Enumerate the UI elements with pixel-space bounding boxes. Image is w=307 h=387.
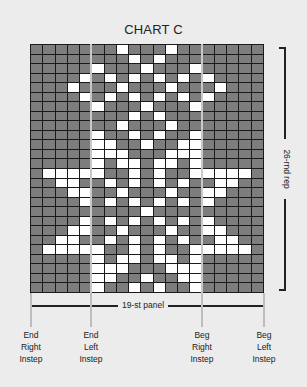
chart-cell-light: [178, 93, 189, 102]
chart-cell-dark: [68, 93, 79, 102]
chart-cell-light: [154, 179, 165, 188]
chart-cell-dark: [105, 131, 116, 140]
chart-cell-dark: [68, 121, 79, 130]
chart-cell-light: [239, 169, 250, 178]
chart-cell-dark: [56, 198, 67, 207]
chart-cell-dark: [31, 188, 42, 197]
chart-cell-light: [178, 198, 189, 207]
chart-cell-light: [92, 283, 103, 292]
chart-cell-dark: [92, 198, 103, 207]
chart-cell-light: [203, 93, 214, 102]
chart-cell-dark: [239, 55, 250, 64]
chart-cell-dark: [105, 102, 116, 111]
chart-cell-dark: [252, 188, 263, 197]
label-line: Instep: [66, 353, 116, 365]
chart-cell-dark: [203, 255, 214, 264]
chart-cell-dark: [178, 283, 189, 292]
chart-cell-dark: [190, 217, 201, 226]
chart-cell-light: [166, 255, 177, 264]
chart-cell-dark: [239, 74, 250, 83]
chart-cell-light: [129, 169, 140, 178]
chart-cell-dark: [215, 140, 226, 149]
chart-cell-dark: [43, 150, 54, 159]
chart-cell-dark: [68, 217, 79, 226]
chart-cell-light: [154, 198, 165, 207]
chart-cell-light: [215, 179, 226, 188]
chart-cell-dark: [92, 112, 103, 121]
chart-cell-dark: [239, 217, 250, 226]
chart-cell-light: [141, 207, 152, 216]
chart-cell-dark: [166, 198, 177, 207]
chart-cell-dark: [31, 255, 42, 264]
chart-cell-dark: [141, 55, 152, 64]
chart-cell-dark: [154, 83, 165, 92]
label-line: Right: [6, 341, 56, 353]
chart-cell-dark: [252, 179, 263, 188]
chart-cell-dark: [92, 188, 103, 197]
chart-cell-dark: [56, 217, 67, 226]
chart-cell-light: [215, 226, 226, 235]
chart-cell-dark: [252, 226, 263, 235]
chart-cell-dark: [203, 140, 214, 149]
chart-cell-light: [129, 93, 140, 102]
chart-cell-dark: [56, 121, 67, 130]
chart-cell-dark: [56, 112, 67, 121]
chart-cell-dark: [178, 226, 189, 235]
label-line: End: [66, 329, 116, 341]
chart-cell-light: [190, 245, 201, 254]
chart-cell-light: [215, 188, 226, 197]
chart-cell-dark: [31, 93, 42, 102]
chart-cell-light: [154, 74, 165, 83]
chart-cell-light: [215, 169, 226, 178]
chart-cell-dark: [252, 274, 263, 283]
chart-cell-dark: [252, 217, 263, 226]
chart-cell-dark: [215, 159, 226, 168]
chart-cell-dark: [215, 112, 226, 121]
label-line: Left: [66, 341, 116, 353]
chart-cell-dark: [190, 188, 201, 197]
chart-cell-dark: [129, 264, 140, 273]
chart-cell-dark: [215, 64, 226, 73]
chart-cell-dark: [105, 121, 116, 130]
chart-cell-dark: [129, 188, 140, 197]
chart-cell-dark: [178, 55, 189, 64]
chart-cell-light: [129, 198, 140, 207]
chart-cell-dark: [178, 131, 189, 140]
chart-cell-dark: [141, 93, 152, 102]
chart-cell-light: [190, 264, 201, 273]
chart-cell-light: [92, 264, 103, 273]
chart-cell-light: [166, 83, 177, 92]
chart-cell-dark: [203, 283, 214, 292]
chart-cell-dark: [31, 102, 42, 111]
chart-cell-light: [68, 188, 79, 197]
chart-cell-dark: [203, 55, 214, 64]
chart-cell-dark: [43, 217, 54, 226]
chart-cell-dark: [43, 83, 54, 92]
chart-cell-dark: [105, 64, 116, 73]
chart-cell-dark: [56, 131, 67, 140]
chart-cell-light: [92, 159, 103, 168]
chart-cell-dark: [215, 45, 226, 54]
chart-cell-dark: [43, 264, 54, 273]
chart-cell-dark: [239, 198, 250, 207]
chart-cell-dark: [129, 140, 140, 149]
chart-cell-light: [56, 245, 67, 254]
chart-cell-dark: [117, 131, 128, 140]
chart-cell-dark: [92, 226, 103, 235]
chart-cell-dark: [252, 55, 263, 64]
chart-cell-dark: [203, 264, 214, 273]
chart-cell-dark: [239, 207, 250, 216]
chart-cell-dark: [215, 102, 226, 111]
chart-cell-light: [105, 264, 116, 273]
chart-cell-light: [190, 102, 201, 111]
chart-cell-light: [190, 140, 201, 149]
chart-cell-dark: [31, 55, 42, 64]
chart-cell-light: [105, 179, 116, 188]
chart-cell-dark: [141, 150, 152, 159]
chart-cell-dark: [227, 207, 238, 216]
chart-cell-light: [178, 217, 189, 226]
chart-cell-dark: [43, 188, 54, 197]
chart-cell-dark: [31, 245, 42, 254]
chart-cell-dark: [239, 121, 250, 130]
chart-cell-light: [43, 245, 54, 254]
